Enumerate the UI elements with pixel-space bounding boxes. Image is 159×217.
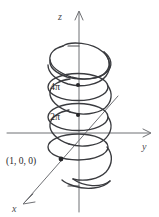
z-axis-label: z: [57, 11, 62, 22]
z-level-label-4pi: 4π: [50, 81, 60, 92]
x-axis-arrowhead: [23, 194, 35, 204]
helix-diagram-svg: z y x 4π 2π (1, 0, 0): [0, 0, 159, 217]
point-dot-1-0-0: [59, 157, 64, 162]
level-dot-2pi: [76, 113, 80, 117]
y-axis-label: y: [141, 141, 147, 152]
x-axis-label: x: [11, 203, 17, 214]
point-label-1-0-0: (1, 0, 0): [6, 156, 36, 167]
helix-ring-origin: [48, 134, 108, 160]
helix-arc-top-back: [63, 43, 109, 72]
helix-figure: z y x 4π 2π (1, 0, 0): [0, 0, 159, 217]
level-dot-4pi: [76, 83, 80, 87]
helix-arc-4pi-back: [50, 52, 111, 79]
z-level-label-2pi: 2π: [50, 111, 60, 122]
